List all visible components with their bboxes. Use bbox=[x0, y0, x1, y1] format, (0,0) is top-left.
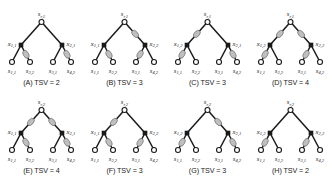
tree-diagram-d: sr,1x1,2x2,2s1,1s2,2s3,1s4,2 bbox=[249, 0, 332, 88]
tree-panel-a: sr,1x1,1x2,1s1,1s2,2s3,1s4,2(A) TSV = 2 bbox=[0, 0, 83, 88]
panel-caption-e: (E) TSV = 4 bbox=[0, 166, 83, 175]
tree-diagram-a: sr,1x1,1x2,1s1,1s2,2s3,1s4,2 bbox=[0, 0, 83, 88]
leaf-label-3: s3,1 bbox=[49, 155, 57, 165]
right-node-label: x2,1 bbox=[66, 40, 76, 50]
right-internal-node bbox=[143, 131, 148, 136]
root-label: sr,2 bbox=[287, 98, 295, 108]
leaf-node-2 bbox=[277, 148, 282, 153]
right-node-label: x2,2 bbox=[149, 128, 159, 138]
tsv-marker bbox=[63, 137, 72, 147]
edge-root-left bbox=[21, 22, 42, 45]
leaf-label-4: s4,2 bbox=[233, 155, 242, 165]
root-node bbox=[39, 20, 44, 25]
tree-diagram-g: sr,2x1,2x2,1s1,1s2,2s3,1s4,2 bbox=[166, 88, 249, 176]
leaf-node-2 bbox=[194, 148, 199, 153]
leaf-node-4 bbox=[318, 60, 323, 65]
leaf-label-4: s4,2 bbox=[316, 155, 325, 165]
left-node-label: x1,2 bbox=[173, 128, 183, 138]
tsv-marker bbox=[105, 137, 114, 147]
leaf-label-1: s1,1 bbox=[91, 67, 99, 77]
panel-caption-d: (D) TSV = 4 bbox=[249, 78, 332, 87]
leaf-node-1 bbox=[10, 148, 15, 153]
leaf-node-1 bbox=[259, 60, 264, 65]
edge-root-right bbox=[42, 22, 63, 45]
panel-caption-c: (C) TSV = 3 bbox=[166, 78, 249, 87]
left-internal-node bbox=[102, 131, 107, 136]
leaf-node-4 bbox=[69, 148, 74, 153]
leaf-label-4: s4,2 bbox=[67, 155, 76, 165]
leaf-label-4: s4,2 bbox=[316, 67, 325, 77]
panel-caption-b: (B) TSV = 3 bbox=[83, 78, 166, 87]
leaf-label-1: s1,1 bbox=[91, 155, 99, 165]
tsv-marker bbox=[302, 137, 311, 147]
leaf-node-3 bbox=[51, 60, 56, 65]
right-internal-node bbox=[309, 131, 314, 136]
leaf-label-3: s3,1 bbox=[215, 155, 223, 165]
root-label: sr,1 bbox=[121, 10, 128, 20]
tsv-marker bbox=[63, 49, 72, 59]
leaf-node-2 bbox=[28, 60, 33, 65]
leaf-node-1 bbox=[176, 60, 181, 65]
leaf-label-1: s1,1 bbox=[257, 67, 265, 77]
right-internal-node bbox=[309, 43, 314, 48]
tsv-marker bbox=[178, 137, 187, 147]
leaf-node-3 bbox=[300, 148, 305, 153]
right-node-label: x2,1 bbox=[66, 128, 76, 138]
root-node bbox=[288, 108, 293, 113]
leaf-label-4: s4,2 bbox=[150, 67, 159, 77]
right-node-label: x2,1 bbox=[232, 40, 242, 50]
tsv-marker bbox=[302, 49, 311, 59]
leaf-node-2 bbox=[111, 60, 116, 65]
leaf-label-1: s1,1 bbox=[8, 67, 16, 77]
tree-panel-g: sr,2x1,2x2,1s1,1s2,2s3,1s4,2(G) TSV = 3 bbox=[166, 88, 249, 176]
left-internal-node bbox=[268, 43, 273, 48]
leaf-node-1 bbox=[259, 148, 264, 153]
left-node-label: x1,1 bbox=[7, 128, 17, 138]
left-internal-node bbox=[185, 43, 190, 48]
leaf-node-3 bbox=[134, 60, 139, 65]
left-internal-node bbox=[19, 131, 24, 136]
leaf-label-4: s4,2 bbox=[233, 67, 242, 77]
leaf-label-2: s2,2 bbox=[192, 67, 201, 77]
left-internal-node bbox=[268, 131, 273, 136]
leaf-node-1 bbox=[93, 148, 98, 153]
leaf-label-4: s4,2 bbox=[67, 67, 76, 77]
root-node bbox=[205, 108, 210, 113]
leaf-label-2: s2,2 bbox=[109, 67, 118, 77]
leaf-label-2: s2,2 bbox=[26, 67, 35, 77]
right-node-label: x2,2 bbox=[149, 40, 159, 50]
leaf-label-3: s3,1 bbox=[298, 155, 306, 165]
tsv-marker bbox=[261, 49, 270, 59]
edge-root-left bbox=[104, 22, 125, 45]
leaf-node-1 bbox=[93, 60, 98, 65]
leaf-label-3: s3,1 bbox=[215, 67, 223, 77]
root-label: sr,1 bbox=[38, 10, 45, 20]
tsv-marker bbox=[229, 49, 238, 59]
root-label: sr,2 bbox=[121, 98, 129, 108]
right-internal-node bbox=[226, 43, 231, 48]
leaf-node-3 bbox=[51, 148, 56, 153]
left-internal-node bbox=[19, 43, 24, 48]
leaf-label-2: s2,2 bbox=[275, 155, 284, 165]
tree-diagram-e: sr,2x1,1x2,1s1,1s2,2s3,1s4,2 bbox=[0, 88, 83, 176]
tree-panel-c: sr,1x1,2x2,1s1,1s2,2s3,1s4,2(C) TSV = 3 bbox=[166, 0, 249, 88]
leaf-label-1: s1,1 bbox=[8, 155, 16, 165]
leaf-label-3: s3,1 bbox=[132, 155, 140, 165]
tree-diagram-c: sr,1x1,2x2,1s1,1s2,2s3,1s4,2 bbox=[166, 0, 249, 88]
root-label: sr,2 bbox=[204, 98, 212, 108]
leaf-label-2: s2,2 bbox=[192, 155, 201, 165]
leaf-node-3 bbox=[300, 60, 305, 65]
leaf-label-1: s1,1 bbox=[174, 155, 182, 165]
tree-diagram-f: sr,2x1,1x2,2s1,1s2,2s3,1s4,2 bbox=[83, 88, 166, 176]
left-node-label: x1,2 bbox=[256, 128, 266, 138]
edge-root-right bbox=[208, 22, 229, 45]
leaf-node-2 bbox=[194, 60, 199, 65]
root-node bbox=[122, 20, 127, 25]
tree-diagram-b: sr,1x1,1x2,2s1,1s2,2s3,1s4,2 bbox=[83, 0, 166, 88]
leaf-node-1 bbox=[176, 148, 181, 153]
leaf-node-3 bbox=[134, 148, 139, 153]
figure-tsv-trees: sr,1x1,1x2,1s1,1s2,2s3,1s4,2(A) TSV = 2s… bbox=[0, 0, 332, 177]
leaf-node-2 bbox=[28, 148, 33, 153]
tsv-marker bbox=[136, 49, 145, 59]
edge-root-left bbox=[187, 110, 208, 133]
